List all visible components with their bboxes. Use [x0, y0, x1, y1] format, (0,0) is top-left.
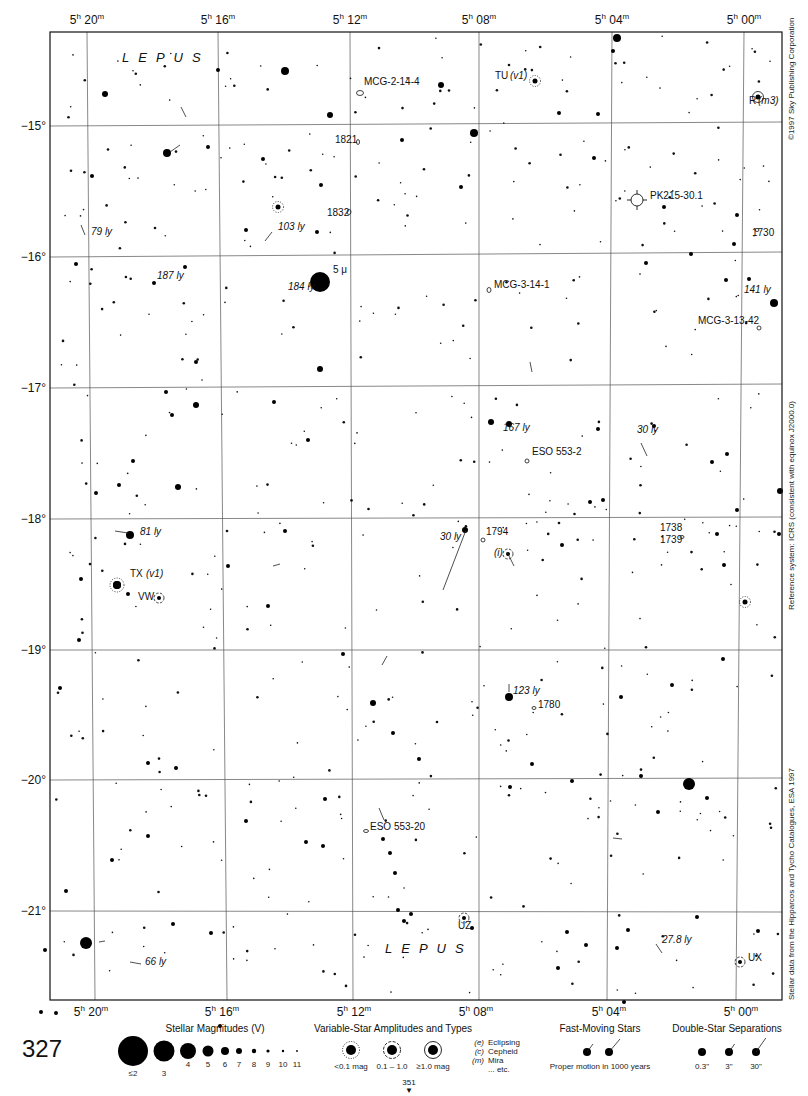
star [429, 127, 432, 130]
star [545, 511, 547, 513]
star [718, 398, 720, 400]
variable-amplitude-label: 0.1 – 1.0 [376, 1062, 407, 1071]
next-page-link[interactable]: 351 ▼ [397, 1079, 421, 1095]
star [617, 989, 619, 991]
variable-type-item: (c)Cepheid [462, 1047, 518, 1056]
star [739, 179, 741, 181]
star [170, 806, 172, 808]
star [479, 646, 481, 648]
star [164, 390, 168, 394]
magnitude-dot [154, 1041, 175, 1062]
star [395, 314, 397, 316]
ra-label-top: 5h 00m [727, 12, 762, 27]
object-label: MCG-2-14-4 [364, 77, 420, 87]
star [556, 951, 558, 953]
dec-label: −18° [0, 512, 46, 526]
object-label: 1730 [752, 228, 774, 238]
star [81, 618, 84, 621]
star [500, 786, 502, 788]
star [490, 896, 493, 899]
star [635, 804, 637, 806]
star [633, 538, 636, 541]
star [752, 984, 755, 987]
star [463, 852, 466, 855]
star [744, 167, 746, 169]
star [164, 952, 166, 954]
star [388, 896, 390, 898]
star [90, 174, 94, 178]
star [309, 133, 311, 135]
star [186, 388, 188, 390]
star [695, 915, 699, 919]
star [471, 701, 473, 703]
star [359, 320, 361, 322]
variable-type-name: Cepheid [488, 1047, 518, 1056]
star [54, 1011, 58, 1015]
star [152, 281, 156, 285]
star [205, 794, 208, 797]
star [503, 122, 505, 124]
star [297, 742, 299, 744]
magnitude-dot [252, 1049, 256, 1053]
star [87, 395, 89, 397]
star [315, 230, 319, 234]
star [474, 107, 476, 109]
object-label: TX [130, 569, 143, 579]
star [557, 620, 559, 622]
star [264, 532, 266, 534]
star [525, 50, 527, 52]
star [460, 459, 463, 462]
variable-star [276, 205, 281, 210]
ra-label-top: 5h 16m [201, 12, 236, 27]
star [629, 457, 632, 460]
object-label: 167 ly [503, 423, 530, 433]
star [373, 312, 375, 314]
star [396, 908, 400, 912]
star [163, 149, 171, 157]
star [580, 578, 583, 581]
object-label: 184 ly [288, 282, 315, 292]
variable-star [738, 960, 742, 964]
star [170, 413, 174, 417]
star [115, 783, 117, 785]
star [720, 470, 722, 472]
variable-type-name: ... etc. [488, 1065, 510, 1074]
star [102, 91, 108, 97]
star [158, 771, 161, 774]
proper-motion-arrow [613, 838, 622, 839]
star [126, 592, 130, 596]
star [101, 570, 104, 573]
star [82, 737, 85, 740]
star [250, 801, 253, 804]
star [377, 199, 380, 202]
object-label: 1739 [660, 535, 682, 545]
star [770, 827, 773, 830]
object-label: TU [495, 71, 508, 81]
star [527, 550, 529, 552]
star [268, 897, 270, 899]
star [175, 150, 178, 153]
star [421, 651, 424, 654]
star [280, 820, 282, 822]
star [419, 575, 421, 577]
star [145, 435, 147, 437]
galaxy-icon [357, 91, 364, 96]
star [135, 72, 138, 75]
star [569, 359, 572, 362]
star [570, 883, 572, 885]
star [433, 485, 435, 487]
star [463, 402, 465, 404]
star [261, 157, 265, 161]
star [719, 811, 721, 813]
star [81, 631, 84, 634]
star [735, 508, 739, 512]
star [169, 412, 171, 414]
proper-motion-arrow [609, 1039, 620, 1052]
ra-label-bottom: 5h 16m [205, 1004, 240, 1019]
star [274, 176, 277, 179]
star [279, 523, 281, 525]
star [566, 90, 569, 93]
star [333, 156, 335, 158]
star [560, 543, 564, 547]
star [319, 183, 323, 187]
